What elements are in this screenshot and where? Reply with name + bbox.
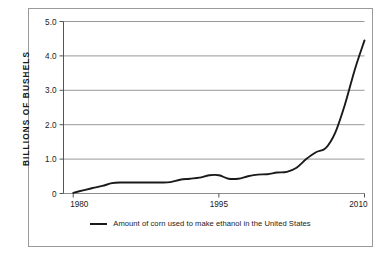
y-tick-label-0: 0	[52, 190, 57, 199]
y-tick-label-1.0: 1.0	[45, 155, 57, 164]
y-tick-label-5.0: 5.0	[45, 18, 57, 27]
y-tick-label-4.0: 4.0	[45, 52, 57, 61]
chart-legend: Amount of corn used to make ethanol in t…	[28, 219, 373, 228]
legend-line-swatch	[90, 223, 107, 225]
x-tick-label-1980: 1980	[70, 200, 89, 209]
y-tick-label-3.0: 3.0	[45, 86, 57, 95]
x-tick-label-2010: 2010	[349, 200, 368, 209]
series-line-0	[73, 40, 364, 192]
chart-figure: BILLIONS OF BUSHELS 01.02.03.04.05.01980…	[0, 0, 386, 261]
y-tick-label-2.0: 2.0	[45, 121, 57, 130]
legend-label: Amount of corn used to make ethanol in t…	[113, 219, 310, 228]
x-tick-label-1995: 1995	[210, 200, 229, 209]
